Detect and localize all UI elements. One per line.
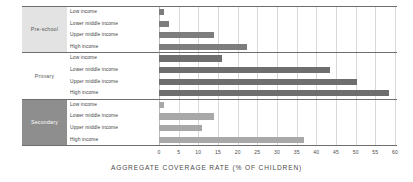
x-tick-label-55: 55	[372, 149, 378, 155]
group-separator	[22, 52, 397, 53]
group-band-primary: Primary	[22, 52, 67, 98]
x-axis: 051015202530354045505560	[22, 147, 397, 161]
bar-row-label: Upper middle income	[70, 29, 118, 41]
bar-row: Lower middle income	[67, 64, 397, 76]
bar	[159, 67, 330, 73]
bar-row-label: Low income	[70, 99, 97, 111]
bar-row: Upper middle income	[67, 122, 397, 134]
bar	[159, 125, 202, 131]
bar-row-label: Lower middle income	[70, 110, 118, 122]
x-axis-title: AGGREGATE COVERAGE RATE (% OF CHILDREN)	[0, 164, 413, 171]
group-band-label: Pre-school	[31, 26, 58, 32]
bar-row-label: High income	[70, 134, 98, 146]
bar-row-label: Lower middle income	[70, 64, 118, 76]
bar-row-label: High income	[70, 87, 98, 99]
x-tick-label-35: 35	[294, 149, 300, 155]
bar-row-label: Lower middle income	[70, 18, 118, 30]
x-tick-label-30: 30	[274, 149, 280, 155]
bar	[159, 102, 164, 108]
x-tick-label-0: 0	[158, 149, 161, 155]
bar	[159, 9, 164, 15]
bar	[159, 90, 389, 96]
x-tick-label-10: 10	[195, 149, 201, 155]
bar-row: Low income	[67, 52, 397, 64]
bar-row-label: Upper middle income	[70, 122, 118, 134]
bar-row: High income	[67, 134, 397, 146]
bar-row-label: Upper middle income	[70, 76, 118, 88]
group-band-label: Primary	[35, 73, 55, 79]
group-separator	[22, 99, 397, 100]
x-tick-label-15: 15	[215, 149, 221, 155]
x-tick-label-25: 25	[254, 149, 260, 155]
bar-row: High income	[67, 87, 397, 99]
bar-row-label: High income	[70, 41, 98, 53]
bar	[159, 113, 214, 119]
x-tick-label-50: 50	[353, 149, 359, 155]
bar-row: Low income	[67, 99, 397, 111]
bar	[159, 55, 222, 61]
bar-row: Lower middle income	[67, 18, 397, 30]
bar-row-label: Low income	[70, 6, 97, 18]
group-band-label: Secondary	[31, 119, 58, 125]
x-tick-label-60: 60	[392, 149, 398, 155]
bar	[159, 21, 169, 27]
bar-row: Low income	[67, 6, 397, 18]
bar-row: Upper middle income	[67, 29, 397, 41]
x-tick-label-40: 40	[313, 149, 319, 155]
bar	[159, 79, 357, 85]
plot-area: Pre-schoolLow incomeLower middle incomeU…	[22, 6, 397, 147]
bar-row-label: Low income	[70, 52, 97, 64]
chart-container: Pre-schoolLow incomeLower middle incomeU…	[0, 0, 413, 182]
bar-row: High income	[67, 41, 397, 53]
group-band-secondary: Secondary	[22, 99, 67, 145]
group-band-pre-school: Pre-school	[22, 6, 67, 52]
x-tick-label-20: 20	[235, 149, 241, 155]
x-tick-label-45: 45	[333, 149, 339, 155]
group-separator	[22, 6, 397, 7]
bar-row: Lower middle income	[67, 110, 397, 122]
bar	[159, 137, 304, 143]
bar	[159, 44, 247, 50]
bar-row: Upper middle income	[67, 76, 397, 88]
x-tick-label-5: 5	[177, 149, 180, 155]
bar	[159, 32, 214, 38]
